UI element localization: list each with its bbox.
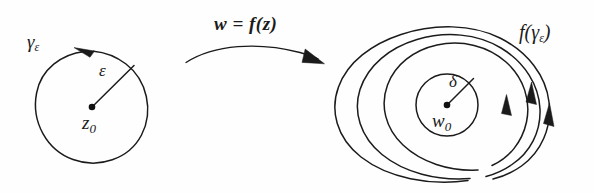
mapping-arrow-head [302, 49, 325, 64]
f-gamma-epsilon-label: f(γε) [519, 22, 551, 44]
mapping-equals: = [232, 13, 243, 34]
diagram-svg [0, 0, 594, 193]
image-loops-group [335, 27, 554, 182]
image-loop-arrowhead-outer [544, 103, 555, 127]
w0-subscript: 0 [445, 119, 452, 134]
gamma-subscript: ε [35, 40, 40, 54]
mapping-f: f [249, 13, 256, 34]
mapping-z: z [263, 13, 271, 34]
w-glyph: w [432, 110, 445, 131]
epsilon-radius-label: ε [99, 62, 106, 79]
image-loop-outer [335, 27, 550, 182]
mapping-close-paren: ) [271, 13, 278, 34]
z0-center-dot [89, 104, 96, 111]
figure-canvas: γε ε z0 w = f(z) δ w0 f(γε) [0, 0, 594, 193]
w0-center-dot [444, 102, 451, 109]
mapping-label: w = f(z) [214, 14, 277, 33]
source-circle-group [35, 48, 147, 163]
gamma-glyph: γ [27, 31, 35, 52]
image-gamma-glyph: γ [531, 21, 539, 43]
gamma-epsilon-label: γε [27, 32, 39, 53]
mapping-arrow-shaft [186, 46, 318, 62]
z0-label: z0 [82, 113, 96, 135]
image-close-paren: ) [544, 21, 551, 43]
w0-label: w0 [432, 111, 451, 133]
mapping-w: w [214, 13, 227, 34]
mapping-open-paren: ( [256, 13, 263, 34]
delta-radius-label: δ [449, 73, 457, 90]
mapping-arrow-group [186, 46, 325, 64]
z0-subscript: 0 [89, 121, 96, 136]
image-loop-arrowhead-inner [502, 95, 512, 116]
